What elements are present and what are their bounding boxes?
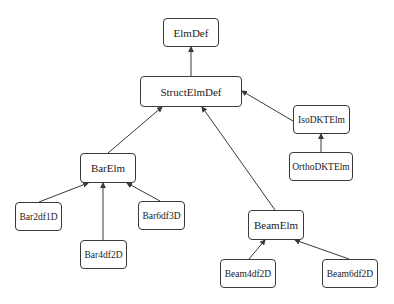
node-label: BarElm [91,162,125,174]
node-beamelm: BeamElm [248,210,304,240]
node-bar4df2d: Bar4df2D [80,240,127,269]
edge-bar2df1d-barelm [39,183,88,202]
node-label: IsoDKTElm [298,115,345,125]
node-label: Bar6df3D [143,211,181,221]
node-structelmdef: StructElmDef [140,76,242,107]
edge-isodktelm-structelmdef [242,91,293,121]
node-label: StructElmDef [160,86,221,98]
node-label: ElmDef [174,27,209,39]
edge-beam6df2d-beamelm [295,240,349,259]
node-label: Bar2df1D [20,212,58,222]
node-orthodktelm: OrthoDKTElm [289,152,353,181]
edge-beam4df2d-beamelm [249,240,265,259]
node-barelm: BarElm [80,153,136,183]
node-label: Bar4df2D [85,250,123,260]
edge-barelm-structelmdef [108,107,162,153]
node-label: Beam6df2D [327,269,373,279]
edge-bar6df3d-barelm [127,183,160,201]
class-hierarchy-diagram: ElmDef StructElmDef IsoDKTElm OrthoDKTEl… [0,0,394,304]
node-bar2df1d: Bar2df1D [15,202,62,231]
node-label: Beam4df2D [225,269,271,279]
node-elmdef: ElmDef [163,18,219,47]
node-beam4df2d: Beam4df2D [220,259,276,288]
edge-beamelm-structelmdef [202,107,275,210]
node-bar6df3d: Bar6df3D [138,201,185,230]
node-isodktelm: IsoDKTElm [293,105,350,134]
node-label: OrthoDKTElm [292,162,350,172]
node-label: BeamElm [254,219,298,231]
node-beam6df2d: Beam6df2D [322,259,378,288]
